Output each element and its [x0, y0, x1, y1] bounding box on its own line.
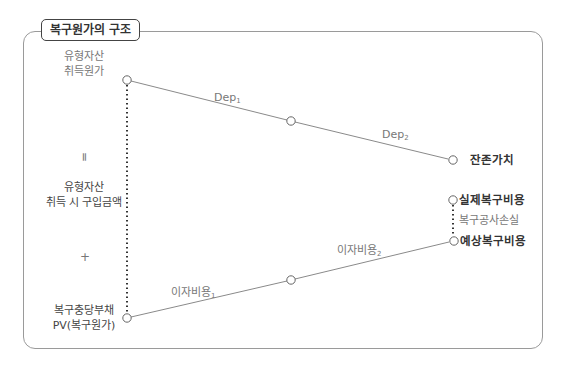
- dep1-sub: 1: [236, 97, 240, 105]
- label-expected-cost: 예상복구비용: [460, 234, 526, 249]
- node-expected-cost: [450, 237, 458, 245]
- label-restoration-loss: 복구공사손실: [459, 213, 519, 228]
- label-asset-cost-line1: 유형자산: [64, 49, 104, 64]
- label-provision: 복구충당부채 PV(복구원가): [53, 303, 116, 333]
- interest1-sub: 1: [211, 292, 215, 300]
- equals-sign: =: [78, 152, 92, 162]
- label-purchase-amount-line1: 유형자산: [46, 180, 123, 195]
- label-asset-cost: 유형자산 취득원가: [64, 49, 104, 79]
- node-actual-cost: [449, 196, 457, 204]
- depreciation-line-2: [295, 122, 448, 159]
- node-dep-mid: [287, 117, 295, 125]
- dep2-base: Dep: [382, 128, 404, 141]
- label-interest2: 이자비용2: [337, 243, 381, 262]
- node-residual-value: [449, 156, 457, 164]
- interest1-base: 이자비용: [171, 286, 211, 299]
- plus-sign: +: [80, 250, 90, 264]
- label-asset-cost-line2: 취득원가: [64, 64, 104, 79]
- label-purchase-amount-line2: 취득 시 구입금액: [46, 195, 123, 210]
- label-dep2: Dep2: [382, 127, 409, 146]
- label-provision-line1: 복구충당부채: [53, 303, 116, 318]
- interest2-base: 이자비용: [337, 244, 377, 257]
- node-interest-mid: [287, 276, 295, 284]
- label-interest1: 이자비용1: [171, 285, 215, 304]
- label-residual-value: 잔존가치: [470, 153, 514, 168]
- label-provision-line2: PV(복구원가): [53, 318, 116, 333]
- depreciation-line-1: [131, 81, 287, 120]
- label-actual-cost: 실제복구비용: [459, 193, 525, 208]
- interest2-sub: 2: [377, 250, 381, 258]
- label-dep1: Dep1: [214, 90, 241, 109]
- node-provision: [123, 314, 131, 322]
- node-acquisition-cost: [123, 76, 131, 84]
- dep2-sub: 2: [404, 134, 408, 142]
- dep1-base: Dep: [214, 91, 236, 104]
- label-purchase-amount: 유형자산 취득 시 구입금액: [46, 180, 123, 210]
